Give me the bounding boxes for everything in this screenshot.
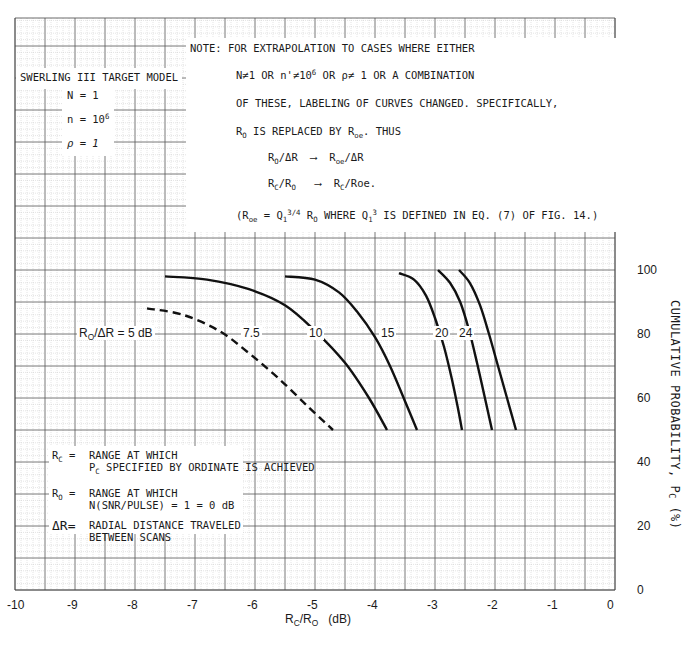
def-ro-key: RO = [52,488,75,499]
note-map-1: RO/ΔR ⟶ Roe/ΔR [268,152,363,163]
def-rc-text-1: RANGE AT WHICH [89,450,178,461]
note-line-4: RO IS REPLACED BY Roe. THUS [236,126,401,137]
note-line-2: N≠1 OR n'≠106 OR ρ≠ 1 OR A COMBINATION [236,70,474,81]
x-tick-label: -6 [247,598,258,612]
curve-label: RO/ΔR = 5 dB [77,326,155,340]
x-tick-label: -4 [367,598,378,612]
note-line-1: NOTE: FOR EXTRAPOLATION TO CASES WHERE E… [190,43,474,54]
note-map-2: RC/RO ⟶ RC/Roe. [268,178,376,189]
curve-label: 24 [457,326,474,340]
curve-label: 7.5 [241,326,262,340]
def-dr-key: ΔR= [52,519,75,532]
param-N: N = 1 [67,90,99,101]
x-tick-label: -5 [307,598,318,612]
curve-label: 10 [307,326,324,340]
y-axis-title: CUMULATIVE PROBABILITY, PC (%) [668,300,682,530]
x-axis-title: RC/RO (dB) [285,612,351,626]
x-tick-label: -9 [67,598,78,612]
x-tick-label: -8 [127,598,138,612]
y-tick-label: 80 [637,327,650,341]
model-title: SWERLING III TARGET MODEL [20,72,178,83]
param-rho: ρ = 1 [67,138,99,149]
y-tick-label: 0 [637,583,644,597]
param-n: n = 106 [67,114,109,125]
def-rc-text-2: PC SPECIFIED BY ORDINATE IS ACHIEVED [89,462,315,473]
x-tick-label: -10 [7,598,24,612]
x-tick-label: -3 [427,598,438,612]
x-tick-label: -1 [547,598,558,612]
x-tick-label: -2 [487,598,498,612]
curve-label: 15 [379,326,396,340]
curves [147,270,516,430]
y-tick-label: 20 [637,519,650,533]
curve-label: 20 [433,326,450,340]
y-tick-label: 40 [637,455,650,469]
model-params: N = 1 n = 106 ρ = 1 [62,86,114,156]
y-tick-label: 100 [637,263,657,277]
x-tick-label: 0 [607,598,614,612]
def-ro-text-2: N(SNR/PULSE) = 1 = 0 dB [89,500,234,511]
curve-r-o-r-5-db [147,308,333,430]
def-dr-text-1: RADIAL DISTANCE TRAVELED [89,520,241,531]
note-box: NOTE: FOR EXTRAPOLATION TO CASES WHERE E… [186,38,628,232]
note-line-3: OF THESE, LABELING OF CURVES CHANGED. SP… [236,98,558,109]
definitions-box: RC = RANGE AT WHICH PC SPECIFIED BY ORDI… [49,446,243,534]
x-tick-label: -7 [187,598,198,612]
def-rc-key: RC = [52,450,75,461]
y-tick-label: 60 [637,391,650,405]
def-ro-text-1: RANGE AT WHICH [89,488,178,499]
note-line-7: (Roe = Q13/4 RO WHERE Q13 IS DEFINED IN … [236,210,598,221]
def-dr-text-2: BETWEEN SCANS [89,532,171,543]
